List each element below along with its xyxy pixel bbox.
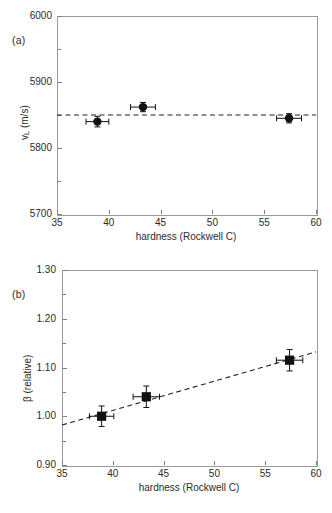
panel-b-data-points bbox=[89, 349, 302, 426]
panel-b-data-layer bbox=[0, 256, 332, 513]
panel-b: (b) 1.30 1.20 1.10 1.00 0.90 35 40 45 50… bbox=[0, 256, 332, 513]
panel-a: (a) 6000 5900 5800 5700 35 40 45 50 55 6… bbox=[0, 0, 332, 256]
panel-a-data-layer bbox=[0, 0, 332, 256]
